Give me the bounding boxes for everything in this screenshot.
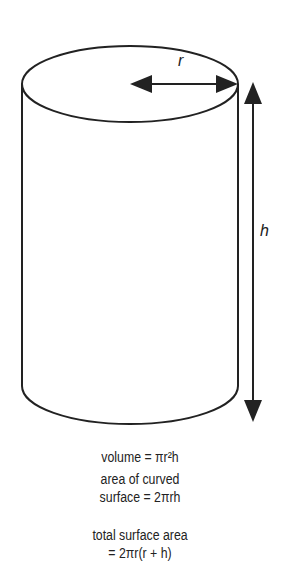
total-area-line1: total surface area (52, 526, 228, 544)
height-label: h (260, 222, 269, 240)
cylinder-bottom (22, 386, 238, 424)
radius-label: r (178, 52, 183, 70)
total-area-line2: = 2πr(r + h) (52, 544, 228, 562)
volume-formula: volume = πr²h (52, 448, 228, 466)
curved-area-line2: surface = 2πrh (52, 488, 228, 506)
curved-area-line1: area of curved (52, 470, 228, 488)
radius-arrow (130, 75, 238, 93)
height-arrow (244, 82, 262, 422)
